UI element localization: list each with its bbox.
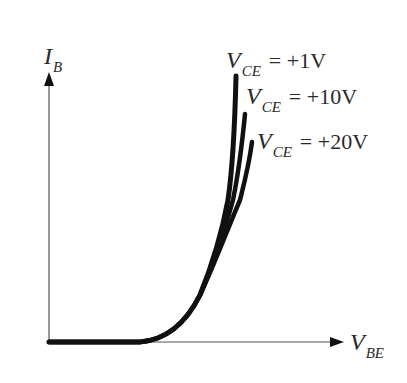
series-label-sub: CE — [242, 63, 261, 79]
y-axis-label-sub: B — [53, 59, 62, 75]
series-label-v: V — [246, 83, 261, 109]
curve-vce-10v — [49, 114, 245, 342]
x-axis-label-sub: BE — [366, 345, 384, 361]
series-label-vce-10v: VCE= +10V — [246, 84, 357, 108]
series-label-sub: CE — [273, 144, 292, 160]
y-axis-label: IB — [44, 44, 62, 68]
x-axis-label-main: V — [350, 329, 365, 355]
series-label-value: = +20V — [300, 129, 368, 154]
series-label-value: = +1V — [269, 48, 326, 73]
y-axis-label-main: I — [44, 43, 52, 69]
curve-vce-1v — [49, 76, 236, 342]
series-label-sub: CE — [262, 99, 281, 115]
series-label-vce-1v: VCE= +1V — [226, 48, 326, 72]
series-label-vce-20v: VCE= +20V — [257, 129, 368, 153]
series-label-value: = +10V — [289, 84, 357, 109]
series-label-v: V — [226, 47, 241, 73]
series-label-v: V — [257, 128, 272, 154]
x-axis-arrow-icon — [330, 337, 344, 347]
x-axis-label: VBE — [350, 330, 384, 354]
